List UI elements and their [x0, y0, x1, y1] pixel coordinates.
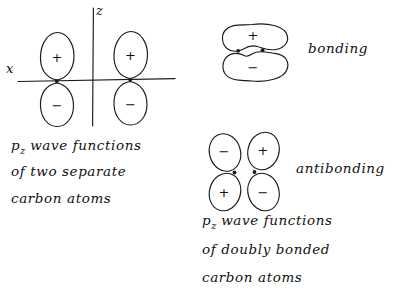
orbital-sign-anti-top-right: +: [258, 144, 269, 157]
caption-separate-rest: wave functions: [30, 137, 141, 153]
nucleus-dot-anti-left: [233, 171, 237, 175]
nucleus-dot-left: [55, 79, 59, 83]
caption-separate-line2: of two separate: [11, 165, 126, 179]
caption-antibonding-line1: pz wave functions: [202, 214, 333, 230]
caption-antibonding-rest: wave functions: [221, 212, 332, 228]
nucleus-dot-anti-right: [253, 170, 257, 174]
orbital-sign-left-upper: +: [52, 51, 63, 64]
figure-canvas: x z + − + − + − − + + − bonding antibond…: [0, 0, 404, 297]
x-axis-label: x: [6, 62, 13, 75]
caption-separate-subscript: z: [20, 145, 25, 156]
antibonding-label: antibonding: [296, 162, 385, 176]
orbital-sign-anti-top-left: −: [219, 145, 230, 158]
caption-antibonding-subscript: z: [211, 220, 216, 231]
caption-separate-line1: pz wave functions: [11, 139, 142, 155]
caption-antibonding-line3: carbon atoms: [202, 271, 302, 285]
orbital-sign-bonding-lower: −: [248, 61, 259, 74]
nucleus-dot-bonding-left: [236, 49, 240, 53]
orbital-sign-right-lower: −: [125, 98, 136, 111]
orbital-sign-anti-bottom-right: −: [258, 186, 269, 199]
caption-antibonding-line2: of doubly bonded: [202, 243, 330, 257]
caption-separate-line3: carbon atoms: [11, 192, 111, 206]
bonding-label: bonding: [308, 42, 368, 56]
orbital-sign-bonding-upper: +: [248, 29, 259, 42]
z-axis-label: z: [96, 4, 103, 17]
caption-separate-p: p: [11, 137, 20, 153]
orbital-sign-right-upper: +: [125, 49, 136, 62]
nucleus-dot-bonding-right: [261, 48, 265, 52]
z-axis-line: [93, 8, 94, 126]
caption-antibonding-p: p: [202, 212, 211, 228]
orbital-sign-left-lower: −: [52, 99, 63, 112]
nucleus-dot-right: [128, 78, 132, 82]
orbital-sign-anti-bottom-left: +: [219, 186, 230, 199]
x-axis-line: [18, 79, 175, 82]
